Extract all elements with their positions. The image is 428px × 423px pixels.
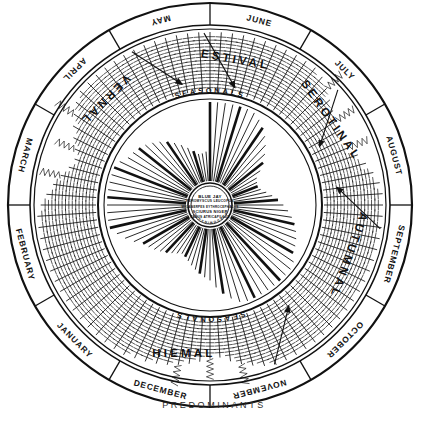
seasonal-ray-tick	[309, 279, 314, 285]
seasonal-ray-tick	[145, 80, 153, 84]
seasonal-ray-tick	[48, 210, 49, 220]
seasonal-ray-tick	[354, 261, 358, 270]
seasonal-ray-tick	[292, 90, 299, 95]
seasonal-ray-tick	[279, 296, 285, 300]
seasonal-ray-wave	[40, 168, 61, 178]
seasonal-ray-tick	[100, 148, 103, 155]
seasonal-ray-tick	[263, 318, 270, 322]
seasonal-ray-tick	[222, 324, 230, 325]
seasonal-ray-wave	[54, 139, 73, 152]
seasonal-ray-tick	[132, 75, 140, 80]
seasonal-ray-tick	[148, 86, 155, 90]
seasonal-ray-tick	[275, 322, 282, 326]
seasonal-ray-tick	[270, 358, 280, 362]
predominant-ray	[202, 153, 206, 181]
seasonal-ray-tick	[282, 72, 290, 77]
month-divider	[35, 104, 54, 115]
seasonal-ray-tick	[280, 52, 289, 57]
seasonal-ray-tick	[80, 127, 85, 135]
seasonal-ray-tick	[317, 148, 320, 155]
seasonal-ray	[217, 319, 220, 358]
seasonal-ray-tick	[317, 129, 322, 136]
seasonal-ray-tick	[270, 47, 280, 51]
seasonal-ray-tick	[278, 97, 285, 101]
seasonal-ray-tick	[107, 260, 111, 266]
seasonal-ray-tick	[140, 102, 146, 106]
seasonal-ray-tick	[103, 150, 106, 157]
seasonal-ray-tick	[215, 346, 224, 347]
seasonal-ray-tick	[139, 339, 148, 343]
seasonal-ray-tick	[357, 262, 361, 271]
seasonal-ray-tick	[148, 321, 155, 325]
seasonal-ray-tick	[371, 210, 372, 220]
seasonal-ray-tick	[85, 262, 89, 270]
seasonal-ray-tick	[52, 190, 53, 200]
seasonal-ray-tick	[62, 261, 66, 270]
core-species-1: PEROMYSCUS LEUCOPUS	[186, 199, 234, 203]
predominant-ray	[214, 229, 224, 294]
seasonal-ray-tick	[85, 140, 89, 148]
seasonal-ray-tick	[59, 262, 63, 271]
seasonal-ray-tick	[332, 140, 336, 148]
seasonal-ray-tick	[332, 262, 336, 270]
seasonal-ray-tick	[280, 75, 288, 80]
predominants-wheel: JUNEJULYAUGUSTSEPTEMBEROCTOBERNOVEMBERDE…	[0, 0, 428, 423]
seasonal-ray-tick	[81, 254, 84, 262]
month-label-may: MAY	[149, 13, 171, 28]
seasonal-ray-tick	[267, 352, 276, 356]
seasonal-ray-tick	[72, 268, 76, 277]
seasonal-ray-tick	[75, 135, 79, 143]
seasonal-ray-tick	[323, 258, 327, 265]
month-label-november: NOVEMBER	[231, 377, 287, 401]
seasonal-ray-tick	[115, 274, 119, 280]
seasonal-ray-tick	[327, 270, 331, 277]
seasonal-ray-tick	[196, 64, 205, 65]
seasonal-ray-tick	[104, 262, 108, 269]
seasonal-ray-tick	[148, 102, 154, 106]
seasonal-ray-tick	[133, 298, 139, 303]
seasonal-ray-tick	[257, 359, 269, 363]
seasonal-ray-tick	[270, 313, 277, 317]
seasonal-ray-tick	[265, 305, 271, 309]
seasonal-ray-tick	[301, 274, 305, 280]
seasonal-ray-tick	[144, 330, 152, 334]
seasonal-ray-tick	[272, 301, 278, 305]
month-label-april: APRIL	[61, 56, 89, 84]
seasonal-ray-tick	[367, 190, 368, 200]
seasonal-ray-tick	[313, 141, 317, 148]
seasonal-ray-tick	[310, 143, 314, 149]
seasonal-ray-tick	[86, 131, 90, 139]
seasonal-ray-tick	[280, 107, 286, 112]
seasonal-ray-tick	[82, 209, 83, 217]
seasonal-ray-tick	[93, 278, 98, 285]
seasonal-ray-tick	[275, 61, 284, 65]
seasonal-ray-wave	[335, 106, 354, 122]
seasonal-ray-tick	[326, 217, 327, 224]
seasonal-ray-tick	[148, 305, 154, 309]
seasonal-ray-tick	[308, 135, 312, 141]
seasonal-ray-tick	[215, 342, 224, 343]
seasonal-ray-tick	[274, 102, 280, 106]
seasonal-ray-tick	[260, 334, 268, 337]
seasonal-ray-tick	[198, 77, 206, 78]
seasonal-ray-tick	[317, 274, 322, 281]
seasonal-ray-tick	[78, 255, 81, 263]
seasonal-ray-tick	[272, 105, 278, 109]
seasonal-ray-tick	[215, 64, 224, 65]
seasonal-ray-tick	[222, 85, 230, 86]
seasonal-ray	[46, 194, 96, 197]
seasonal-ray-tick	[336, 148, 339, 156]
seasonal-ray-tick	[130, 88, 137, 93]
month-label-december: DECEMBER	[133, 378, 189, 402]
seasonal-ray-tick	[197, 67, 206, 68]
seasonal-ray-tick	[325, 280, 330, 287]
seasonal-ray-tick	[144, 76, 152, 80]
seasonal-ray-tick	[139, 67, 148, 71]
seasonal-ray-tick	[267, 54, 276, 58]
seasonal-ray-tick	[288, 325, 296, 330]
seasonal-ray-tick	[112, 275, 117, 281]
seasonal-ray-tick	[57, 275, 62, 284]
seasonal-ray-tick	[69, 210, 70, 219]
seasonal-ray-tick	[285, 339, 294, 344]
seasonal-ray-tick	[110, 267, 114, 273]
